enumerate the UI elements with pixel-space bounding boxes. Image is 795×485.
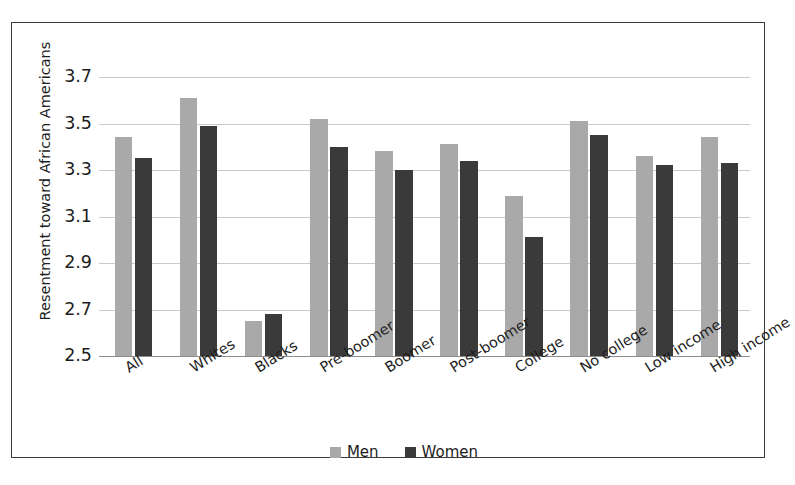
y-axis-tick-label: 3.1: [46, 206, 92, 226]
legend-entry: Women: [405, 443, 478, 461]
bar-group: [685, 77, 750, 356]
bar-women: [395, 170, 413, 356]
chart-frame: Resentment toward African Americans 3.73…: [11, 22, 765, 458]
y-axis-tick-label: 2.5: [46, 345, 92, 365]
bar-women: [721, 163, 739, 356]
bar-women: [330, 147, 348, 356]
y-axis-tick-labels: 3.73.53.33.12.92.72.5: [42, 77, 92, 356]
y-axis-tick-label: 3.5: [46, 113, 92, 133]
bar-group: [99, 77, 164, 356]
bar-men: [310, 119, 328, 356]
bar-women: [200, 126, 218, 356]
legend-label: Women: [422, 443, 478, 461]
bar-men: [180, 98, 198, 356]
bar-group: [229, 77, 294, 356]
bar-women: [590, 135, 608, 356]
bar-group: [164, 77, 229, 356]
legend-swatch-women: [405, 447, 416, 458]
y-axis-tick-label: 3.7: [46, 66, 92, 86]
legend-label: Men: [347, 443, 379, 461]
bar-women: [135, 158, 153, 356]
bar-group: [294, 77, 359, 356]
bar-group: [425, 77, 490, 356]
chart-legend: MenWomen: [12, 443, 795, 461]
x-axis-category-labels: AllWhitesBlacksPre-boomerBoomerPost-boom…: [99, 356, 750, 451]
legend-entry: Men: [330, 443, 379, 461]
bar-men: [570, 121, 588, 356]
y-axis-tick-label: 3.3: [46, 159, 92, 179]
bar-men: [245, 321, 263, 356]
bar-women: [656, 165, 674, 356]
x-axis-category-label: All: [122, 352, 146, 375]
bar-women: [525, 237, 543, 356]
y-axis-tick-label: 2.7: [46, 299, 92, 319]
bar-men: [440, 144, 458, 356]
legend-swatch-men: [330, 447, 341, 458]
bar-men: [115, 137, 133, 356]
bars-layer: [99, 77, 750, 356]
bar-group: [620, 77, 685, 356]
y-axis-tick-label: 2.9: [46, 252, 92, 272]
bar-women: [460, 161, 478, 356]
bar-group: [555, 77, 620, 356]
bar-group: [359, 77, 424, 356]
plot-area: [99, 77, 750, 356]
